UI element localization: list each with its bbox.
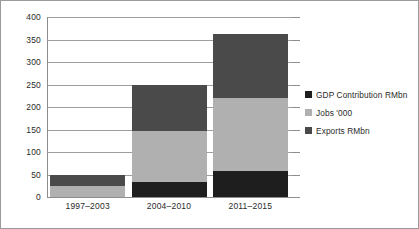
chart-legend: GDP Contribution RMbnJobs '000Exports RM… bbox=[305, 87, 419, 141]
y-tickmark-350 bbox=[292, 40, 300, 41]
legend-swatch-icon bbox=[305, 91, 312, 98]
y-tickmark-400 bbox=[292, 17, 300, 18]
y-tickmark-250 bbox=[292, 85, 300, 86]
bar-segment bbox=[50, 186, 125, 197]
bar-group-1997–2003 bbox=[50, 17, 125, 197]
y-tickmark-100 bbox=[292, 152, 300, 153]
bar-segment bbox=[213, 34, 288, 98]
bar-segment bbox=[213, 171, 288, 197]
legend-item: GDP Contribution RMbn bbox=[305, 87, 419, 102]
legend-label: GDP Contribution RMbn bbox=[316, 90, 407, 100]
y-tickmark-300 bbox=[292, 62, 300, 63]
y-tickmark-150 bbox=[292, 130, 300, 131]
bar-group-2011–2015 bbox=[213, 17, 288, 197]
x-label-2004–2010: 2004–2010 bbox=[147, 201, 191, 211]
x-axis-category-labels: 1997–20032004–20102011–2015 bbox=[47, 201, 291, 221]
y-tick-label-100: 100 bbox=[26, 147, 41, 157]
y-axis-tick-labels: 050100150200250300350400 bbox=[1, 1, 47, 228]
y-tick-label-350: 350 bbox=[26, 35, 41, 45]
bar-segment bbox=[132, 182, 207, 197]
bar-segment bbox=[132, 131, 207, 182]
y-tick-label-150: 150 bbox=[26, 125, 41, 135]
legend-swatch-icon bbox=[305, 109, 312, 116]
y-tick-label-400: 400 bbox=[26, 12, 41, 22]
bar-segment bbox=[132, 85, 207, 131]
legend-item: Exports RMbn bbox=[305, 123, 419, 138]
legend-swatch-icon bbox=[305, 127, 312, 134]
bar-stack bbox=[213, 34, 288, 197]
bar-stack bbox=[50, 175, 125, 198]
y-tick-label-250: 250 bbox=[26, 80, 41, 90]
x-label-1997–2003: 1997–2003 bbox=[65, 201, 109, 211]
y-tick-label-50: 50 bbox=[31, 170, 41, 180]
y-tick-label-200: 200 bbox=[26, 102, 41, 112]
x-label-2011–2015: 2011–2015 bbox=[228, 201, 272, 211]
bar-stack bbox=[132, 85, 207, 197]
legend-label: Jobs '000 bbox=[316, 108, 352, 118]
bar-segment bbox=[50, 175, 125, 186]
legend-label: Exports RMbn bbox=[316, 126, 370, 136]
y-tickmark-200 bbox=[292, 107, 300, 108]
y-tickmark-50 bbox=[292, 175, 300, 176]
bar-segment bbox=[213, 98, 288, 171]
bar-series-layer bbox=[47, 17, 291, 197]
chart-figure: 050100150200250300350400 1997–20032004–2… bbox=[0, 0, 419, 229]
x-axis-baseline bbox=[47, 197, 299, 198]
y-tick-label-300: 300 bbox=[26, 57, 41, 67]
bar-group-2004–2010 bbox=[132, 17, 207, 197]
y-tick-label-0: 0 bbox=[36, 192, 41, 202]
legend-item: Jobs '000 bbox=[305, 105, 419, 120]
